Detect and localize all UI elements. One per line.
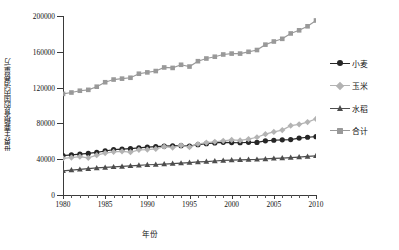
series-合计: [63, 18, 316, 96]
x-axis-tick-minor: [114, 195, 115, 198]
data-point: [313, 116, 316, 122]
data-point: [204, 56, 209, 61]
x-axis-tick-label: 2010: [309, 200, 324, 209]
x-axis-tick-minor: [130, 195, 131, 198]
data-point: [196, 59, 201, 64]
series-水稻: [63, 153, 316, 173]
series-line: [63, 20, 316, 93]
data-point: [296, 121, 302, 127]
legend-label: 合计: [352, 125, 368, 136]
x-axis-tick-minor: [282, 195, 283, 198]
y-axis-tick-label: 200000: [33, 12, 55, 21]
data-point: [178, 142, 184, 148]
line-chart: 世界主要粮食的国内消费量/万 0400008000012000016000020…: [0, 0, 399, 250]
legend-marker-triangle-icon: [337, 105, 343, 111]
data-point: [297, 28, 302, 33]
x-axis-tick-label: 1985: [98, 200, 113, 209]
data-point: [280, 137, 285, 142]
x-axis-tick-label: 1995: [182, 200, 197, 209]
data-point: [161, 144, 167, 150]
x-axis-tick-minor: [299, 195, 300, 198]
data-point: [78, 88, 83, 93]
x-axis-tick: [63, 195, 64, 199]
data-point: [103, 80, 108, 85]
x-axis-tick: [147, 195, 148, 199]
data-point: [263, 138, 268, 143]
x-axis-tick: [316, 195, 317, 199]
y-axis-tick-label: 40000: [37, 155, 55, 164]
legend-item-玉米[interactable]: 玉米: [330, 81, 399, 91]
x-axis-tick-minor: [291, 195, 292, 198]
series-line: [63, 119, 316, 158]
data-point: [313, 134, 316, 139]
x-axis-tick-label: 2005: [266, 200, 281, 209]
legend-marker-square-icon: [337, 128, 343, 134]
y-axis-tick-label: 160000: [33, 47, 55, 56]
x-axis-tick-minor: [206, 195, 207, 198]
x-axis-tick-minor: [88, 195, 89, 198]
data-point: [162, 65, 167, 70]
x-axis-tick-minor: [223, 195, 224, 198]
x-axis-tick-label: 1980: [56, 200, 71, 209]
x-axis-tick-minor: [198, 195, 199, 198]
x-axis-tick: [232, 195, 233, 199]
data-point: [229, 51, 234, 56]
data-point: [195, 141, 201, 147]
legend-item-合计[interactable]: 合计: [330, 126, 399, 136]
legend-key: [330, 104, 350, 113]
data-point: [288, 123, 294, 129]
data-point: [128, 75, 133, 80]
x-axis-tick-minor: [249, 195, 250, 198]
chart-legend: 小麦玉米水稻合计: [330, 58, 399, 136]
data-point: [305, 135, 310, 140]
data-point: [153, 69, 158, 74]
data-point: [280, 37, 285, 42]
y-axis-tick: [57, 88, 63, 89]
data-point: [254, 134, 260, 140]
data-point: [170, 66, 175, 71]
legend-key: [330, 126, 350, 135]
data-point: [305, 24, 310, 29]
data-point: [271, 138, 276, 143]
legend-label: 水稻: [352, 103, 368, 114]
x-axis-tick: [190, 195, 191, 199]
x-axis-tick-minor: [173, 195, 174, 198]
data-point: [262, 131, 268, 137]
legend-item-水稻[interactable]: 水稻: [330, 103, 399, 113]
y-axis-tick: [57, 123, 63, 124]
data-point: [279, 127, 285, 133]
data-point: [85, 155, 91, 161]
legend-label: 小麦: [352, 58, 368, 69]
data-point: [120, 76, 125, 81]
x-axis-tick-minor: [164, 195, 165, 198]
x-axis-tick-label: 2000: [224, 200, 239, 209]
x-axis-tick-minor: [80, 195, 81, 198]
legend-item-小麦[interactable]: 小麦: [330, 58, 399, 68]
data-point: [137, 71, 142, 76]
y-axis-tick: [57, 52, 63, 53]
data-point: [304, 119, 310, 125]
x-axis-tick-minor: [265, 195, 266, 198]
data-point: [221, 52, 226, 57]
data-point: [271, 129, 277, 135]
x-axis-tick-minor: [97, 195, 98, 198]
data-point: [288, 137, 293, 142]
x-axis-tick-minor: [215, 195, 216, 198]
data-point: [63, 92, 65, 97]
y-axis-tick: [57, 16, 63, 17]
data-point: [263, 42, 268, 47]
data-point: [179, 62, 184, 67]
x-axis-tick-minor: [122, 195, 123, 198]
data-point: [254, 140, 259, 145]
x-axis-tick-minor: [240, 195, 241, 198]
data-point: [297, 135, 302, 140]
data-point: [86, 88, 91, 93]
data-point: [255, 48, 260, 53]
x-axis-label: 年份: [0, 228, 300, 239]
series-canvas: [63, 16, 316, 195]
y-axis-tick-label: 120000: [33, 83, 55, 92]
x-axis-tick-minor: [308, 195, 309, 198]
x-axis-tick: [105, 195, 106, 199]
data-point: [111, 77, 116, 82]
legend-key: [330, 59, 350, 68]
